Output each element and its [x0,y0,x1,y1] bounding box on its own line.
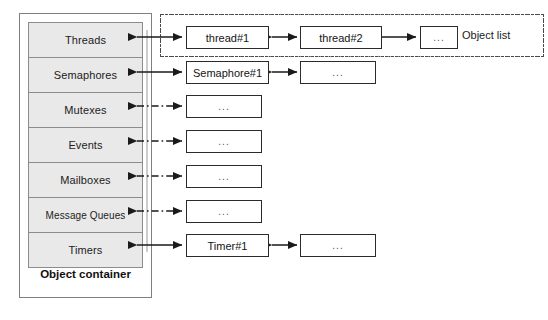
node-label: ... [218,136,229,147]
node-label: thread#2 [319,32,362,44]
node-label: ... [218,206,229,217]
container-row-semaphores[interactable]: Semaphores [29,58,142,93]
object-node-mutex-more[interactable]: ... [186,95,262,118]
container-row-mutexes[interactable]: Mutexes [29,93,142,128]
object-node-event-more[interactable]: ... [186,130,262,153]
node-label: ... [332,240,343,251]
object-node-thread-2[interactable]: thread#2 [300,26,382,49]
diagram-canvas: Object list Threads Semaphores Mutexes E… [0,0,548,320]
node-label: ... [332,67,343,78]
node-label: Semaphore#1 [193,67,262,79]
object-node-timer-more[interactable]: ... [300,234,376,257]
object-node-semaphore-1[interactable]: Semaphore#1 [186,61,269,84]
node-label: thread#1 [206,32,249,44]
object-node-thread-1[interactable]: thread#1 [186,26,269,49]
node-label: Timer#1 [208,240,248,252]
container-row-label: Mutexes [64,104,106,116]
container-row-label: Mailboxes [60,174,110,186]
container-row-label: Semaphores [54,69,117,81]
node-label: ... [433,32,444,43]
object-container-cell-stack: Threads Semaphores Mutexes Events Mailbo… [28,22,143,268]
object-container-caption: Object container [19,268,152,280]
container-row-label: Threads [65,34,106,46]
container-row-label: Timers [69,244,103,256]
object-node-semaphore-more[interactable]: ... [300,61,376,84]
node-label: ... [218,101,229,112]
object-node-thread-more[interactable]: ... [420,26,458,49]
node-label: ... [218,171,229,182]
container-row-label: Events [68,139,102,151]
container-row-label: Message Queues [46,210,126,221]
container-row-timers[interactable]: Timers [29,233,142,268]
container-row-threads[interactable]: Threads [29,23,142,58]
object-node-mailbox-more[interactable]: ... [186,165,262,188]
container-row-mailboxes[interactable]: Mailboxes [29,163,142,198]
container-row-message-queues[interactable]: Message Queues [29,198,142,233]
object-node-timer-1[interactable]: Timer#1 [186,234,269,257]
object-node-message-queue-more[interactable]: ... [186,200,262,223]
object-list-label: Object list [462,29,510,41]
container-row-events[interactable]: Events [29,128,142,163]
